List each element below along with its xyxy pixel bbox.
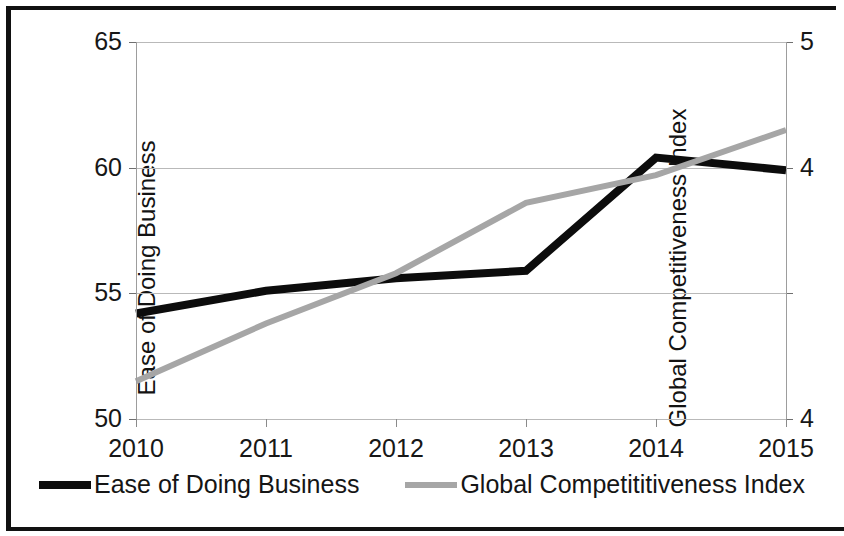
- y-axis-left-tick: [129, 168, 136, 169]
- x-axis-tick: [656, 419, 657, 427]
- legend-item-label: Ease of Doing Business: [94, 470, 359, 499]
- y-axis-left-tick-label: 60: [94, 155, 122, 180]
- x-axis-tick: [136, 419, 137, 427]
- series-line-2: [136, 130, 786, 381]
- x-axis-ticks: [136, 419, 786, 429]
- y-axis-right-tick-label: 4: [800, 406, 814, 431]
- legend-item[interactable]: Ease of Doing Business: [39, 470, 359, 499]
- y-axis-left-tick-label: 50: [94, 406, 122, 431]
- series-lines: [136, 42, 786, 419]
- x-axis-tick: [786, 419, 787, 427]
- figure-border-bottom: [6, 527, 844, 531]
- y-axis-left-tick-label: 65: [94, 29, 122, 54]
- x-axis-tick-label: 2013: [486, 436, 566, 461]
- chart-figure: Ease of Doing Business Global Competitiv…: [0, 0, 844, 536]
- y-axis-right-tick: [786, 293, 793, 294]
- plot-area: [136, 42, 786, 419]
- y-axis-right-line: [786, 42, 787, 419]
- y-axis-left-tick: [129, 419, 136, 420]
- x-axis-tick: [396, 419, 397, 427]
- x-axis-tick: [526, 419, 527, 427]
- legend-item[interactable]: Global Competititiveness Index: [405, 470, 805, 499]
- x-axis-tick-label: 2012: [356, 436, 436, 461]
- x-axis-tick-label: 2015: [746, 436, 826, 461]
- x-axis-tick-label: 2014: [616, 436, 696, 461]
- legend-swatch-eodb-icon: [39, 481, 91, 489]
- chart-legend: Ease of Doing BusinessGlobal Competititi…: [0, 470, 844, 499]
- y-axis-left-line: [136, 42, 137, 419]
- y-axis-right-tick-label: 4: [800, 155, 814, 180]
- y-axis-left-tick: [129, 42, 136, 43]
- legend-swatch-gci-icon: [405, 482, 457, 488]
- y-axis-right-tick: [786, 42, 793, 43]
- x-axis-tick-label: 2010: [96, 436, 176, 461]
- legend-item-label: Global Competititiveness Index: [460, 470, 805, 499]
- y-axis-left-tick-label: 55: [94, 280, 122, 305]
- x-axis-tick-label: 2011: [226, 436, 306, 461]
- y-axis-right-tick: [786, 168, 793, 169]
- y-axis-right-tick-label: 5: [800, 29, 814, 54]
- x-axis-tick: [266, 419, 267, 427]
- y-axis-left-tick: [129, 293, 136, 294]
- y-axis-right-tick: [786, 419, 793, 420]
